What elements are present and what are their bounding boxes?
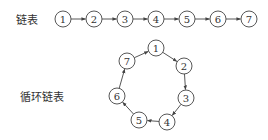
pointer-arrow — [163, 52, 177, 61]
node-value: 7 — [246, 14, 252, 25]
list-node: 6 — [109, 88, 125, 104]
node-value: 4 — [164, 117, 170, 128]
pointer-arrow — [184, 74, 185, 90]
list-node: 4 — [148, 11, 164, 27]
pointer-arrow — [119, 69, 124, 88]
list-node: 2 — [176, 58, 192, 74]
list-node: 3 — [178, 90, 194, 106]
linear-list-nodes: 1234567 — [55, 11, 257, 27]
node-value: 6 — [114, 91, 120, 102]
pointer-arrow — [123, 102, 134, 114]
list-node: 1 — [148, 40, 164, 56]
pointer-arrow — [172, 104, 181, 115]
list-node: 3 — [117, 11, 133, 27]
list-node: 7 — [241, 11, 257, 27]
node-value: 1 — [153, 43, 159, 54]
node-value: 4 — [153, 14, 159, 25]
node-value: 6 — [215, 14, 221, 25]
node-value: 2 — [181, 61, 187, 72]
pointer-arrow — [147, 121, 159, 122]
list-node: 5 — [131, 112, 147, 128]
node-value: 5 — [136, 115, 142, 126]
node-value: 7 — [124, 56, 130, 67]
pointer-arrow — [134, 51, 148, 57]
list-node: 4 — [159, 114, 175, 130]
list-node: 1 — [55, 11, 71, 27]
list-node: 5 — [179, 11, 195, 27]
node-value: 3 — [183, 93, 189, 104]
list-node: 6 — [210, 11, 226, 27]
node-value: 3 — [122, 14, 128, 25]
list-node: 2 — [86, 11, 102, 27]
node-value: 2 — [91, 14, 97, 25]
list-node: 7 — [119, 53, 135, 69]
circular-list-nodes: 1234567 — [109, 40, 194, 130]
node-value: 1 — [60, 14, 66, 25]
node-value: 5 — [184, 14, 190, 25]
linked-list-diagram: 1234567 1234567 — [0, 0, 268, 140]
